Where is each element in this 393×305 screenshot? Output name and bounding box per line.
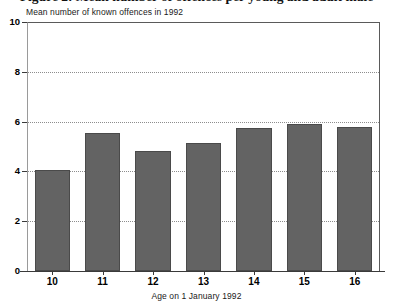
x-axis-title: Age on 1 January 1992 (0, 291, 393, 301)
x-tick-label-14: 14 (234, 276, 274, 288)
y-tick-8 (22, 72, 27, 73)
y-tick-label-8: 8 (0, 67, 20, 77)
y-tick-label-2: 2 (0, 216, 20, 226)
y-tick-label-10: 10 (0, 17, 20, 27)
bar (135, 151, 170, 271)
x-tick-label-13: 13 (184, 276, 224, 288)
y-tick-4 (22, 171, 27, 172)
gridline-8 (28, 72, 379, 73)
figure-title-clipped-region: Figure 2: Mean number of offences per yo… (0, 0, 393, 6)
gridline-6 (28, 122, 379, 123)
x-tick-label-16: 16 (335, 276, 375, 288)
y-tick-label-wrap-4: 4 (0, 166, 20, 176)
x-tick-label-12: 12 (133, 276, 173, 288)
bar (85, 133, 120, 271)
x-tick-label-10: 10 (32, 276, 72, 288)
x-axis-baseline (20, 271, 385, 272)
bar (186, 143, 221, 271)
x-tick-label-15: 15 (284, 276, 324, 288)
bar (35, 170, 70, 271)
y-tick-label-0: 0 (0, 266, 20, 276)
y-tick-label-wrap-8: 8 (0, 67, 20, 77)
bar (287, 124, 322, 271)
bar (337, 127, 372, 271)
y-tick-label-wrap-2: 2 (0, 216, 20, 226)
y-tick-6 (22, 122, 27, 123)
y-tick-label-wrap-0: 0 (0, 266, 20, 276)
y-tick-label-6: 6 (0, 117, 20, 127)
figure-title: Figure 2: Mean number of offences per yo… (0, 0, 393, 4)
y-tick-label-wrap-6: 6 (0, 117, 20, 127)
y-tick-label-wrap-10: 10 (0, 17, 20, 27)
y-tick-10 (22, 22, 27, 23)
bar (236, 128, 271, 271)
y-tick-label-4: 4 (0, 166, 20, 176)
x-tick-label-11: 11 (83, 276, 123, 288)
y-tick-2 (22, 221, 27, 222)
y-axis-description: Mean number of known offences in 1992 (26, 7, 183, 17)
